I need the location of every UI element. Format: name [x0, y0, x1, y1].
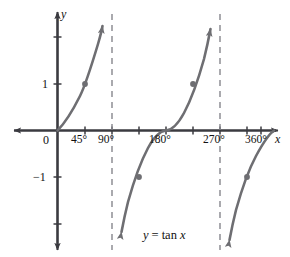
curve-branch-2-lower: [122, 131, 167, 233]
tangent-function-graph-figure: y x 0 1 −1 45° 90° 180° 270° 360° y=tanx: [0, 0, 290, 257]
plot-canvas: [0, 0, 290, 257]
equation-function-name: tan: [162, 228, 177, 242]
equation-lhs: y: [143, 228, 149, 242]
curve-branch-2-upper: [166, 29, 211, 131]
x-axis-label: x: [275, 133, 280, 145]
y-tick-label-neg-1: −1: [33, 171, 46, 183]
x-tick-label-180: 180°: [149, 134, 171, 146]
x-tick-label-270: 270°: [203, 134, 225, 146]
x-tick-label-360: 360°: [245, 134, 267, 146]
curve-branch-1: [58, 26, 103, 131]
point-315-neg1: [244, 174, 250, 180]
x-tick-label-90: 90°: [98, 134, 114, 146]
equation-argument: x: [180, 228, 186, 242]
y-axis-label: y: [61, 8, 66, 20]
equation-equals: =: [152, 228, 159, 242]
origin-label: 0: [43, 134, 49, 146]
y-tick-label-1: 1: [42, 78, 48, 90]
equation-label: y=tanx: [143, 229, 185, 242]
point-135-neg1: [136, 174, 142, 180]
x-tick-label-45: 45°: [71, 134, 87, 146]
curve-branch-3: [230, 131, 275, 241]
point-45-1: [82, 81, 88, 87]
point-225-1: [190, 81, 196, 87]
